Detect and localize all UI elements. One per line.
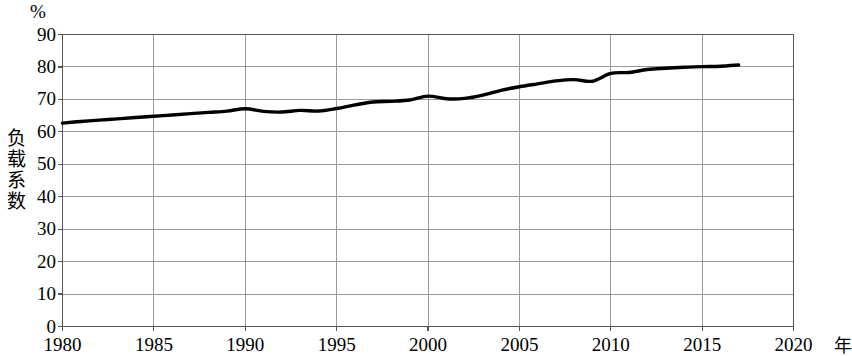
x-tick-label: 2010: [576, 335, 646, 354]
x-tick-label: 2000: [393, 335, 463, 354]
x-tick-label: 1980: [28, 335, 98, 354]
x-tick-label: 1985: [119, 335, 189, 354]
x-tick-label: 2005: [484, 335, 554, 354]
x-tick-label: 2015: [667, 335, 737, 354]
x-tick-label: 2020: [759, 335, 829, 354]
x-tick-label: 1995: [302, 335, 372, 354]
x-axis-title: 年: [834, 336, 852, 355]
x-tick-label: 1990: [210, 335, 280, 354]
